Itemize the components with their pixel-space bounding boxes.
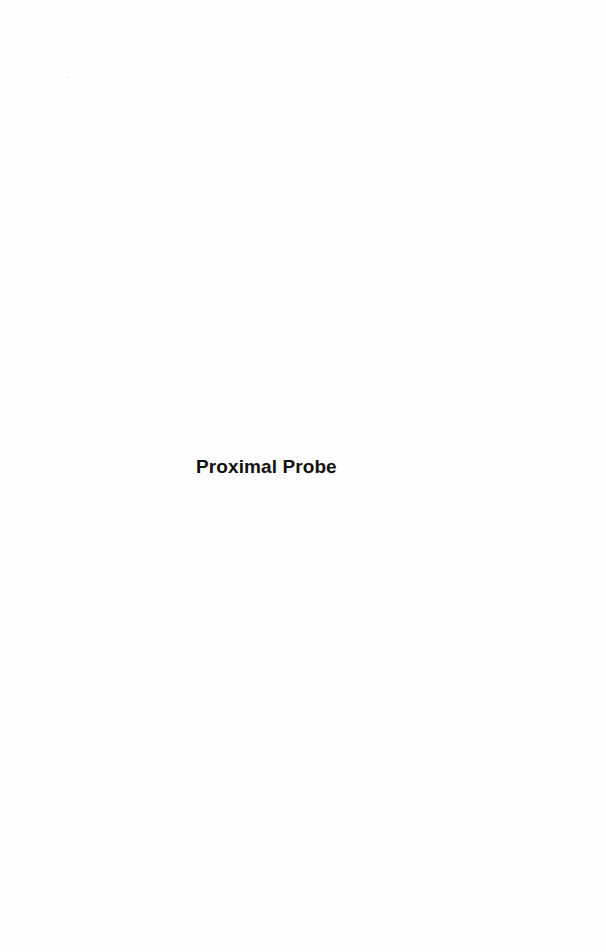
document-page: Proximal Probe: [0, 0, 606, 952]
scan-speck: [66, 76, 68, 78]
page-title: Proximal Probe: [196, 455, 337, 479]
